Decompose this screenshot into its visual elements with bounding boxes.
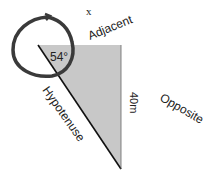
adjacent-side-label: Adjacent <box>86 12 135 43</box>
unknown-variable-label: x <box>86 5 92 17</box>
opposite-length-label: 40m <box>128 92 140 113</box>
triangle-diagram: 54° x Adjacent 40m Opposite Hypotenuse <box>0 0 212 180</box>
opposite-side-label: Opposite <box>158 90 207 126</box>
angle-label: 54° <box>50 50 68 64</box>
